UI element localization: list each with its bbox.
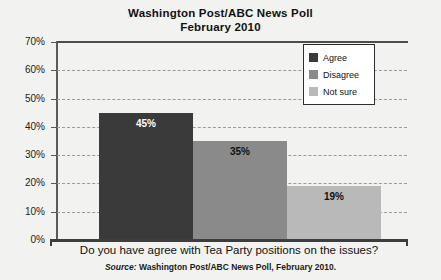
legend-swatch-icon <box>309 53 318 62</box>
chart-legend: AgreeDisagreeNot sure <box>303 44 375 105</box>
y-axis-label: 60% <box>0 65 45 75</box>
source-label: Source: <box>105 262 137 272</box>
bar-value-label: 19% <box>287 191 381 202</box>
legend-swatch-icon <box>309 87 318 96</box>
chart-title: Washington Post/ABC News Poll February 2… <box>0 6 441 34</box>
legend-item-not-sure[interactable]: Not sure <box>309 83 369 100</box>
y-axis-label: 20% <box>0 178 45 188</box>
y-axis-label: 0% <box>0 235 45 245</box>
chart-subtitle: February 2010 <box>0 20 441 34</box>
chart-container: Washington Post/ABC News Poll February 2… <box>0 0 441 280</box>
chart-title-line-1: Washington Post/ABC News Poll <box>128 7 313 19</box>
y-axis-label: 10% <box>0 207 45 217</box>
y-axis-label: 40% <box>0 122 45 132</box>
source-text: Washington Post/ABC News Poll, February … <box>139 262 336 272</box>
y-axis-label: 70% <box>0 37 45 47</box>
x-axis-line <box>50 239 408 242</box>
legend-label: Agree <box>323 53 347 63</box>
bar-agree[interactable]: 45% <box>99 113 193 240</box>
legend-item-disagree[interactable]: Disagree <box>309 66 369 83</box>
x-axis-caption: Do you have agree with Tea Party positio… <box>50 243 408 257</box>
bar-disagree[interactable]: 35% <box>193 141 287 240</box>
legend-label: Disagree <box>323 70 359 80</box>
y-axis-label: 30% <box>0 150 45 160</box>
bar-not-sure[interactable]: 19% <box>287 186 381 240</box>
source-note: Source: Washington Post/ABC News Poll, F… <box>0 262 441 272</box>
legend-item-agree[interactable]: Agree <box>309 49 369 66</box>
bar-value-label: 45% <box>99 118 193 129</box>
legend-swatch-icon <box>309 70 318 79</box>
legend-label: Not sure <box>323 87 357 97</box>
bar-value-label: 35% <box>193 146 287 157</box>
y-axis-label: 50% <box>0 94 45 104</box>
